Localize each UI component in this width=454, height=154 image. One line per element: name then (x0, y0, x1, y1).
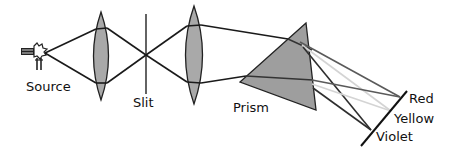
prism-label: Prism (233, 100, 269, 115)
diverging-rays (146, 26, 187, 82)
violet-label: Violet (376, 129, 413, 144)
lens-2-icon (186, 6, 203, 104)
source-label: Source (26, 79, 71, 94)
spectroscope-diagram: Source Slit Prism Red Yellow Violet (0, 0, 454, 154)
incident-rays (45, 29, 96, 83)
light-source-icon (21, 43, 47, 70)
red-label: Red (409, 91, 434, 106)
lens-1-icon (94, 12, 109, 100)
prism-icon (240, 23, 316, 110)
yellow-label: Yellow (393, 111, 434, 126)
slit-label: Slit (133, 95, 154, 110)
